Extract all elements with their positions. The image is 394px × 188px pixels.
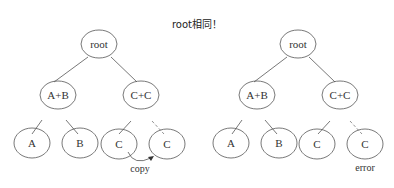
- node-a-plus-b: A+B: [40, 81, 76, 109]
- node-cc-label: C+C: [131, 89, 152, 101]
- node-root-label: root: [289, 38, 307, 50]
- node-c-plus-c: C+C: [322, 81, 358, 109]
- node-a: A: [213, 128, 249, 158]
- node-a-label: A: [28, 137, 36, 149]
- left-tree: root A+B C+C A B C C cop: [14, 30, 185, 174]
- node-c2-label: C: [361, 138, 368, 150]
- error-annotation: error: [355, 162, 375, 173]
- copy-arrow-icon: [128, 152, 154, 161]
- node-root-label: root: [90, 38, 108, 50]
- copy-annotation: copy: [130, 163, 149, 174]
- node-root: root: [280, 30, 316, 58]
- right-tree: root A+B C+C A B C C error: [213, 30, 383, 173]
- node-ab-label: A+B: [47, 89, 68, 101]
- node-b: B: [261, 128, 297, 158]
- node-root: root: [81, 30, 117, 58]
- node-a-plus-b: A+B: [239, 81, 275, 109]
- node-c1-label: C: [115, 138, 122, 150]
- node-c2-label: C: [163, 138, 170, 150]
- node-b-label: B: [76, 137, 83, 149]
- tree-diagrams: root A+B C+C A B C C cop: [0, 0, 394, 188]
- node-c2: C: [149, 129, 185, 159]
- node-a: A: [14, 128, 50, 158]
- node-c2: C: [347, 129, 383, 159]
- node-c1: C: [299, 129, 335, 159]
- node-b: B: [62, 128, 98, 158]
- node-a-label: A: [227, 137, 235, 149]
- node-c-plus-c: C+C: [123, 81, 159, 109]
- node-ab-label: A+B: [246, 89, 267, 101]
- node-c1-label: C: [313, 138, 320, 150]
- node-cc-label: C+C: [330, 89, 351, 101]
- node-b-label: B: [275, 137, 282, 149]
